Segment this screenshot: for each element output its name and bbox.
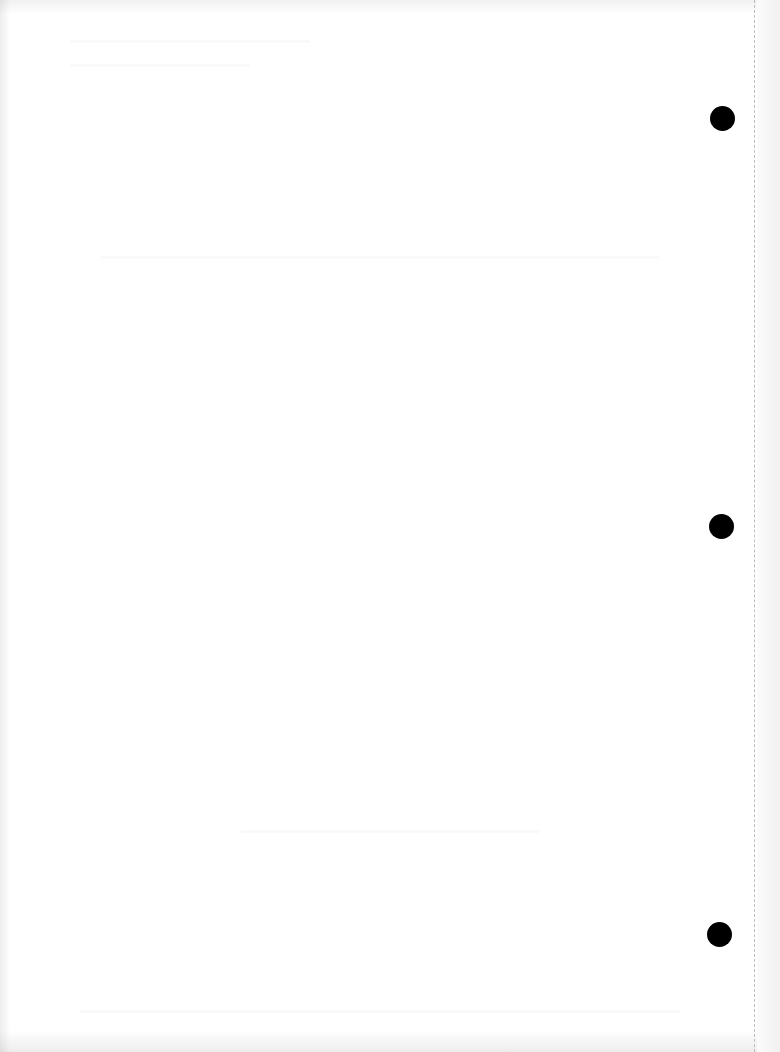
show-through-mark xyxy=(100,256,660,259)
perforation-line xyxy=(754,0,755,1052)
scanned-page xyxy=(0,0,780,1052)
show-through-mark xyxy=(80,1010,680,1013)
scan-shadow-top xyxy=(0,0,780,14)
punch-hole-bottom xyxy=(707,922,732,947)
show-through-mark xyxy=(70,40,310,43)
punch-hole-top xyxy=(710,106,735,131)
show-through-mark xyxy=(70,64,250,67)
scan-shadow-left xyxy=(0,0,10,1052)
show-through-mark xyxy=(240,830,540,833)
scan-shadow-bottom xyxy=(0,1030,780,1052)
binding-margin xyxy=(757,0,780,1052)
punch-hole-middle xyxy=(709,514,734,539)
